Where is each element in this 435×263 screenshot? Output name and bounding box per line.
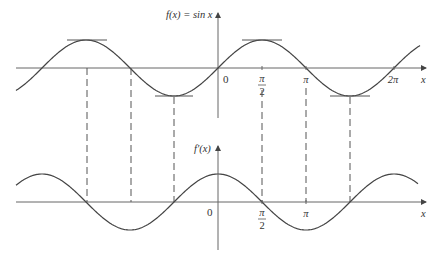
top-pi-label: π: [303, 74, 309, 85]
bottom-graph: f′(x) 0 π 2 π x: [16, 143, 426, 250]
bottom-origin-label: 0: [207, 206, 213, 218]
top-function-label: f(x) = sin x: [166, 9, 213, 21]
bottom-pi-half-denominator: 2: [259, 220, 264, 231]
bottom-x-axis-label: x: [420, 208, 426, 219]
top-pi-half-numerator: π: [259, 73, 265, 84]
bottom-pi-label: π: [303, 208, 309, 219]
sine-derivative-diagram: f(x) = sin x 0 π 2 π 2π x f′(x) 0 π 2 π …: [0, 0, 435, 263]
bottom-function-label: f′(x): [194, 143, 211, 155]
bottom-pi-half-numerator: π: [259, 207, 265, 218]
top-origin-label: 0: [223, 73, 229, 85]
top-2pi-label: 2π: [388, 74, 399, 85]
top-x-axis-label: x: [420, 74, 426, 85]
top-graph: f(x) = sin x 0 π 2 π 2π x: [16, 9, 426, 118]
